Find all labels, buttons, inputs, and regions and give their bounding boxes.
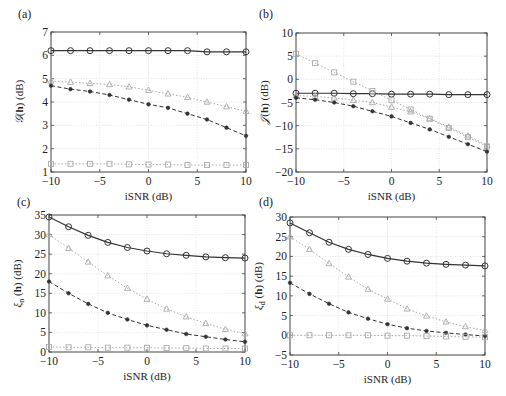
chart-panel-c: (c)−10−5051005101520253035iSNR (dB)ξn (h… bbox=[11, 195, 251, 383]
y-tick-label: 15 bbox=[35, 287, 47, 299]
x-axis-label: iSNR (dB) bbox=[368, 190, 416, 203]
y-tick-label: 0 bbox=[281, 329, 287, 341]
x-axis-label: iSNR (dB) bbox=[125, 190, 173, 203]
y-tick-label: 1 bbox=[42, 166, 48, 178]
y-tick-label: 20 bbox=[276, 250, 288, 262]
x-tick-label: 0 bbox=[385, 358, 391, 370]
y-tick-label: 5 bbox=[42, 73, 48, 85]
x-tick-label: −5 bbox=[333, 358, 345, 370]
panel-label: (d) bbox=[259, 195, 273, 209]
grid bbox=[51, 32, 246, 172]
x-tick-label: −5 bbox=[338, 175, 350, 187]
y-tick-label: 10 bbox=[282, 27, 294, 39]
series-squares-dotted bbox=[49, 161, 249, 167]
x-tick-label: 10 bbox=[481, 175, 493, 187]
y-tick-label: 4 bbox=[42, 96, 48, 108]
series-circles-solid bbox=[48, 48, 249, 55]
x-tick-label: 5 bbox=[193, 355, 199, 367]
y-tick-label: 30 bbox=[276, 211, 288, 223]
x-tick-label: −5 bbox=[94, 175, 106, 187]
y-tick-label: 10 bbox=[276, 290, 288, 302]
x-tick-label: 10 bbox=[479, 358, 491, 370]
y-tick-label: 15 bbox=[276, 270, 288, 282]
y-axis-label: ξn (h) (dB) bbox=[11, 259, 26, 307]
x-tick-label: 10 bbox=[240, 175, 252, 187]
y-tick-label: −20 bbox=[275, 166, 293, 178]
y-tick-label: 20 bbox=[35, 268, 47, 280]
y-tick-label: 25 bbox=[35, 248, 47, 260]
x-tick-label: 10 bbox=[239, 355, 251, 367]
y-tick-label: 5 bbox=[287, 50, 293, 62]
x-tick-label: 5 bbox=[436, 175, 442, 187]
y-tick-label: 25 bbox=[276, 231, 288, 243]
x-tick-label: −5 bbox=[92, 355, 104, 367]
y-axis-label: 𝒥(h) (dB) bbox=[258, 80, 271, 126]
y-tick-label: −10 bbox=[275, 120, 293, 132]
series-stars-dashed bbox=[47, 280, 247, 344]
series-circles-solid bbox=[293, 90, 490, 97]
series-triangles-dotted bbox=[48, 78, 249, 114]
y-tick-label: −5 bbox=[275, 349, 287, 361]
y-tick-label: 35 bbox=[35, 209, 47, 221]
x-tick-label: 5 bbox=[433, 358, 439, 370]
panel-label: (c) bbox=[17, 195, 30, 209]
x-tick-label: 5 bbox=[194, 175, 200, 187]
y-tick-label: 7 bbox=[42, 26, 48, 38]
y-tick-label: 10 bbox=[35, 307, 47, 319]
x-tick-label: 0 bbox=[389, 175, 395, 187]
y-tick-label: 3 bbox=[42, 119, 48, 131]
chart-panel-a: (a)−10−505101234567iSNR (dB)𝒢(h) (dB) bbox=[13, 7, 252, 203]
y-tick-label: 6 bbox=[42, 49, 48, 61]
chart-panel-b: (b)−10−50510−20−15−10−50510iSNR (dB)𝒥(h)… bbox=[258, 7, 493, 203]
series-squares-dotted bbox=[47, 344, 248, 351]
x-axis-label: iSNR (dB) bbox=[364, 373, 412, 386]
grid bbox=[49, 215, 245, 352]
y-tick-label: −15 bbox=[275, 143, 293, 155]
y-tick-label: 5 bbox=[40, 326, 46, 338]
y-tick-label: 0 bbox=[287, 73, 293, 85]
y-axis-label: ξd (h) (dB) bbox=[252, 262, 267, 310]
x-tick-label: 0 bbox=[144, 355, 150, 367]
chart-panel-d: (d)−10−50510−5051015202530iSNR (dB)ξd (h… bbox=[252, 195, 491, 386]
y-tick-label: −5 bbox=[281, 97, 293, 109]
x-tick-label: 0 bbox=[146, 175, 152, 187]
y-tick-label: 30 bbox=[35, 229, 47, 241]
y-tick-label: 0 bbox=[40, 346, 46, 358]
panel-label: (a) bbox=[18, 7, 31, 21]
x-axis-label: iSNR (dB) bbox=[123, 370, 171, 383]
y-tick-label: 2 bbox=[42, 143, 48, 155]
y-axis-label: 𝒢(h) (dB) bbox=[13, 79, 26, 124]
panel-label: (b) bbox=[259, 7, 273, 21]
figure: (a)−10−505101234567iSNR (dB)𝒢(h) (dB)(b)… bbox=[0, 0, 506, 396]
y-tick-label: 5 bbox=[281, 310, 287, 322]
